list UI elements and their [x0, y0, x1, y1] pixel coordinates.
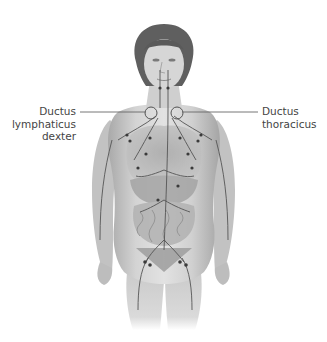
anatomy-figure: Ductus lymphaticus dexter Ductus thoraci…	[0, 0, 327, 342]
body-illustration	[0, 0, 327, 342]
head	[134, 24, 193, 89]
label-ductus-lymphaticus-dexter: Ductus lymphaticus dexter	[12, 105, 76, 143]
label-ductus-thoracicus: Ductus thoracicus	[262, 105, 317, 130]
